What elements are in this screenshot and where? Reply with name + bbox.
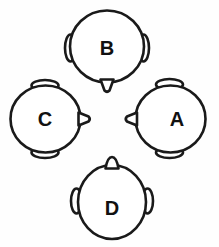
head-label-a: A xyxy=(170,108,184,130)
head-label-c: C xyxy=(38,108,52,130)
head-group-c[interactable]: C xyxy=(11,80,90,158)
nose-right-icon xyxy=(79,113,90,126)
head-group-d[interactable]: D xyxy=(71,157,153,239)
head-orientation-diagram: B C A D xyxy=(0,0,219,247)
head-label-b: B xyxy=(100,37,114,59)
nose-up-icon xyxy=(106,157,119,169)
head-label-d: D xyxy=(105,197,119,219)
head-group-b[interactable]: B xyxy=(65,11,149,92)
heads-svg-canvas: B C A D xyxy=(0,0,219,247)
nose-left-icon xyxy=(126,113,137,126)
nose-down-icon xyxy=(101,80,114,92)
head-group-a[interactable]: A xyxy=(126,79,206,158)
